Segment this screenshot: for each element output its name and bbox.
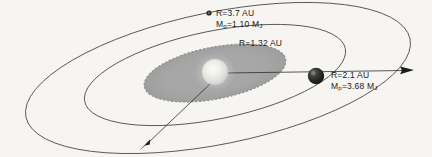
outer-planet-radius-text: R=3.7 AU [216, 8, 263, 19]
inner-planet-marker [308, 68, 324, 84]
inner-planet-radius-text: R=2.1 AU [331, 70, 378, 81]
inner-planet-label: R=2.1 AU Mp=3.68 MJ [331, 70, 378, 93]
central-star [194, 53, 236, 91]
outer-planet-label: R=3.7 AU Mp=1.10 MJ [216, 8, 263, 31]
outer-planet-mass-text: Mp=1.10 MJ [216, 19, 263, 31]
middle-orbit-radius-text: R=1.32 AU [239, 38, 282, 49]
outer-planet-marker [206, 10, 211, 15]
inner-planet-mass-text: Mp=3.68 MJ [331, 81, 378, 93]
middle-orbit-label: R=1.32 AU [239, 38, 282, 49]
exoplanet-orbit-figure: R=3.7 AU Mp=1.10 MJ R=1.32 AU R=2.1 AU M… [0, 0, 432, 157]
